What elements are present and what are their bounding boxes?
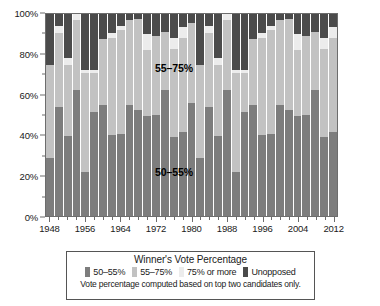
bar-segment [46,14,54,65]
bar-segment [320,14,328,38]
bar-segment [329,27,337,38]
x-tick-mark [227,217,228,222]
x-minor-tick [58,217,59,220]
bar-segment [223,90,231,216]
bar-segment [55,14,63,26]
bar-segment [143,34,151,50]
bar-segment [285,110,293,216]
x-minor-tick [67,217,68,220]
legend-item-label: Unopposed [251,267,295,277]
x-tick-mark [263,217,264,222]
x-tick-label: 1964 [110,223,130,234]
bar-segment [90,14,98,70]
x-tick-label: 1956 [75,223,95,234]
bar-segment [267,14,275,26]
bar-segment [108,135,116,216]
bar-segment [320,49,328,137]
x-minor-tick [316,217,317,220]
y-tick-label: 60% [20,89,38,100]
bar-2012 [329,14,337,216]
bar-segment [179,38,187,132]
bar-segment [214,14,222,58]
bar-1982 [196,14,205,216]
bar-segment [329,38,337,132]
bar-1988 [223,14,232,216]
legend-swatch-icon [243,267,248,277]
legend-item[interactable]: 75% or more [179,267,236,277]
bar-segment [214,136,222,216]
bar-segment [152,14,160,36]
bar-segment [117,14,125,26]
bar-segment [117,30,125,134]
bar-segment [134,110,142,216]
bar-1954 [73,14,82,216]
bar-segment [267,134,275,216]
bar-segment [90,112,98,216]
bar-segment [232,172,240,216]
x-minor-tick [218,217,219,220]
legend-item[interactable]: 55–75% [132,267,172,277]
legend-items: 50–55%55–75%75% or moreUnopposed [85,267,295,277]
x-minor-tick [280,217,281,220]
bar-segment [143,14,151,34]
y-tick-label: 80% [20,48,38,59]
legend-item-label: 75% or more [187,267,236,277]
bar-1974 [161,14,170,216]
bar-segment [143,116,151,216]
x-tick-mark [334,217,335,222]
bar-1972 [152,14,161,216]
bar-1966 [126,14,135,216]
plot-annotation-label: 50–55% [155,166,193,178]
bar-1960 [99,14,108,216]
legend-item[interactable]: Unopposed [243,267,295,277]
bar-1994 [249,14,258,216]
x-minor-tick [245,217,246,220]
bar-1992 [241,14,250,216]
bar-segment [214,65,222,137]
bar-segment [249,39,257,106]
bar-segment [232,14,240,70]
legend-swatch-icon [179,267,184,277]
x-minor-tick [112,217,113,220]
bar-segment [267,30,275,134]
bar-segment [329,14,337,27]
bar-2002 [285,14,294,216]
bar-segment [55,107,63,216]
bar-segment [249,14,257,39]
legend-item[interactable]: 50–55% [85,267,125,277]
bar-2006 [302,14,311,216]
bar-1964 [117,14,126,216]
legend-item-label: 55–75% [140,267,172,277]
bar-segment [81,172,89,216]
legend-swatch-icon [132,267,137,277]
bar-2008 [311,14,320,216]
bar-segment [302,14,310,36]
bar-segment [170,38,178,49]
plot-area [45,13,338,217]
x-tick-mark [49,217,50,222]
bar-segment [126,20,134,105]
x-tick-label: 2012 [323,223,343,234]
bar-segment [241,73,249,112]
bar-2000 [276,14,285,216]
bar-1950 [55,14,64,216]
x-tick-mark [192,217,193,222]
bar-segment [205,107,213,216]
chart-figure: 0%20%40%60%80%100% 194819561964197219801… [0,0,380,306]
bar-1998 [267,14,276,216]
x-tick-label: 1996 [252,223,272,234]
bar-segment [241,112,249,216]
x-tick-mark [298,217,299,222]
bar-segment [134,19,142,110]
legend-title: Winner's Vote Percentage [134,254,247,265]
x-minor-tick [174,217,175,220]
bar-segment [258,135,266,216]
bar-segment [161,90,169,216]
bar-segment [302,36,310,115]
bar-segment [73,90,81,216]
x-minor-tick [129,217,130,220]
bar-segment [64,14,72,58]
bar-segment [126,105,134,216]
bar-1962 [108,14,117,216]
y-tick-label: 0% [25,212,38,223]
